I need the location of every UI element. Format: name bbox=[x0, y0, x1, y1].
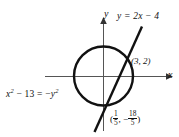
x-axis-label: x bbox=[168, 70, 172, 80]
y-axis-label: y bbox=[104, 9, 108, 19]
fraction-denominator: 5 bbox=[128, 119, 136, 127]
circle-eq-middle: − 13 = − bbox=[14, 89, 51, 99]
line-equation-label: y = 2x − 4 bbox=[117, 12, 159, 22]
circle-eq-y-exponent: 2 bbox=[55, 87, 58, 94]
point-lower-separator: , − bbox=[118, 114, 128, 124]
math-figure: x y y = 2x − 4 x2 − 13 = −y2 (3, 2) (15,… bbox=[0, 0, 179, 137]
intersection-point-lower-label: (15, −185) bbox=[110, 110, 140, 126]
fraction-eighteen-fifths: 185 bbox=[128, 110, 136, 126]
intersection-point-upper-label: (3, 2) bbox=[131, 57, 151, 66]
circle-equation-label: x2 − 13 = −y2 bbox=[6, 88, 59, 100]
paren-close: ) bbox=[137, 114, 140, 124]
